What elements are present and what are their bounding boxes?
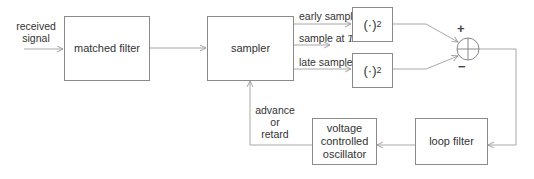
sample-at-t-label: sample at T <box>299 32 353 45</box>
received-signal-line1: received <box>14 20 58 32</box>
early-sample-label: early sample <box>299 10 359 22</box>
summer-minus-sign: − <box>458 59 466 74</box>
loop-filter-block: loop filter <box>415 118 488 165</box>
vco-line3: oscillator <box>323 148 366 161</box>
square-late-exponent: 2 <box>376 64 381 77</box>
late-sample-label: late sample <box>299 56 353 68</box>
square-early-block: (·)2 <box>352 7 393 42</box>
sampler-label: sampler <box>231 42 270 55</box>
matched-filter-block: matched filter <box>64 16 150 81</box>
or-text: or <box>253 116 297 128</box>
vco-line2: controlled <box>321 135 369 148</box>
advance-retard-label: advance or retard <box>253 104 297 140</box>
matched-filter-label: matched filter <box>74 42 140 55</box>
loop-filter-label: loop filter <box>429 135 474 148</box>
square-early-base: (·) <box>363 18 376 31</box>
vco-line1: voltage <box>327 122 362 135</box>
sampler-block: sampler <box>207 16 294 81</box>
sample-at-prefix: sample at <box>299 32 347 44</box>
square-late-base: (·) <box>363 64 376 77</box>
advance-text: advance <box>253 104 297 116</box>
summer-plus-sign: + <box>457 21 465 36</box>
received-signal-line2: signal <box>14 32 58 44</box>
retard-text: retard <box>253 128 297 140</box>
vco-block: voltage controlled oscillator <box>312 118 377 165</box>
received-signal-label: received signal <box>14 20 58 44</box>
square-late-block: (·)2 <box>352 53 393 88</box>
square-early-exponent: 2 <box>376 18 381 31</box>
